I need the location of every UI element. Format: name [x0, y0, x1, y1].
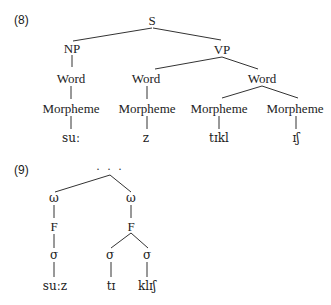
leaf-z: z: [143, 132, 149, 144]
leaf-ti: tɪ: [107, 280, 116, 292]
node-foot-1: F: [50, 220, 57, 233]
node-sigma-2: σ: [106, 249, 114, 261]
node-s: S: [148, 14, 155, 27]
branch-word3-morph3: [222, 86, 262, 98]
leaf-ish: ɪʃ: [292, 132, 299, 144]
node-morpheme-4: Morpheme: [266, 102, 323, 115]
branch-s-np: [73, 28, 152, 41]
branch-vp-word2: [155, 57, 222, 69]
branch-s-vp: [153, 28, 221, 40]
branch-root-pw2: [110, 175, 131, 192]
example-number-8: (8): [14, 14, 29, 26]
branch-vp-word3: [222, 57, 258, 69]
example-number-9: (9): [14, 164, 29, 176]
branch-foot2-syl3: [131, 233, 148, 248]
node-omega-1: ω: [49, 192, 59, 204]
node-vp: VP: [214, 43, 231, 56]
node-word-3: Word: [248, 72, 277, 85]
node-sigma-1: σ: [50, 249, 58, 261]
linguistic-tree-figure: (8) S NP VP Word Word Word Morpheme Morp…: [0, 0, 331, 305]
leaf-klish: klɪʃ: [138, 280, 156, 292]
node-morpheme-3: Morpheme: [190, 102, 247, 115]
branch-foot2-syl2: [111, 233, 131, 248]
branch-word3-morph4: [262, 86, 298, 98]
leaf-su: suː: [62, 132, 80, 144]
leaf-tikl: tɪkl: [209, 132, 229, 144]
node-sigma-3: σ: [143, 249, 151, 261]
node-omega-2: ω: [126, 192, 136, 204]
node-ellipsis-root: · · ·: [96, 163, 124, 175]
node-word-1: Word: [57, 72, 86, 85]
node-np: NP: [64, 42, 81, 55]
branch-root-pw1: [55, 175, 110, 192]
node-foot-2: F: [127, 220, 134, 233]
leaf-suz: suːz: [43, 280, 67, 292]
node-morpheme-1: Morpheme: [42, 102, 99, 115]
node-morpheme-2: Morpheme: [118, 102, 175, 115]
node-word-2: Word: [132, 72, 161, 85]
